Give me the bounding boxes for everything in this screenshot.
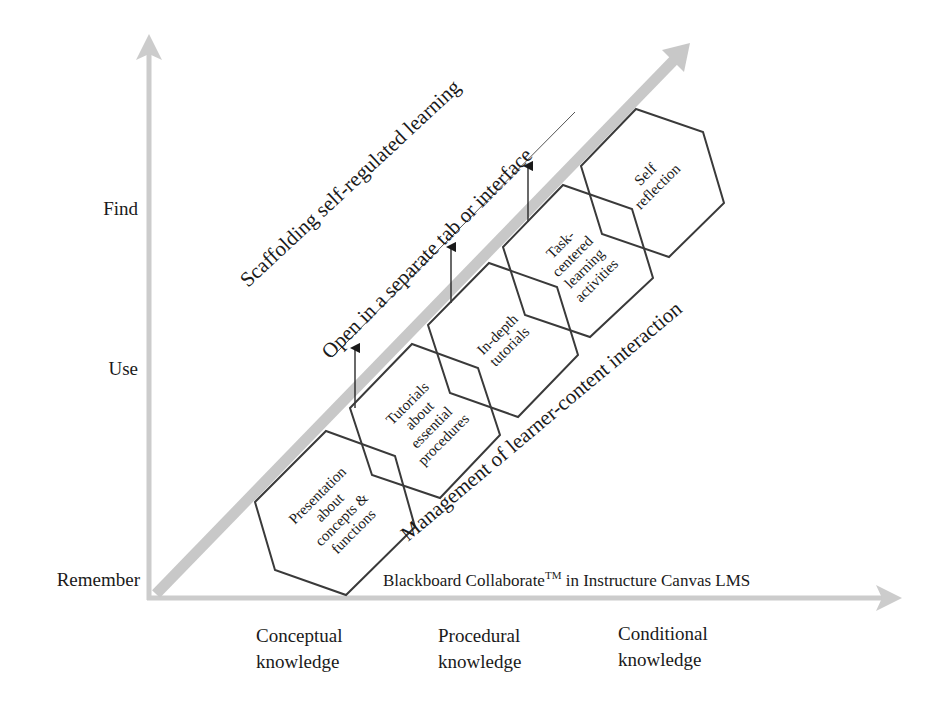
- diagram-canvas: Presentation about concepts & functions …: [0, 0, 930, 704]
- svg-text:Conditional: Conditional: [618, 623, 708, 644]
- hexagon-label-in-depth: In-depth tutorials: [474, 310, 534, 370]
- x-axis-caption: Blackboard CollaborateTM in Instructure …: [383, 569, 750, 590]
- y-level-remember: Remember: [57, 569, 141, 590]
- svg-text:knowledge: knowledge: [438, 651, 521, 672]
- y-level-use: Use: [108, 358, 138, 379]
- hexagon-label-task-centered: Task- centered learning activities: [536, 219, 622, 305]
- x-category-procedural: Procedural knowledge: [438, 625, 521, 672]
- svg-text:Procedural: Procedural: [438, 625, 520, 646]
- y-level-find: Find: [103, 198, 138, 219]
- hexagon-label-self-reflection: Self reflection: [619, 148, 683, 212]
- svg-text:knowledge: knowledge: [256, 651, 339, 672]
- x-category-conditional: Conditional knowledge: [618, 623, 708, 670]
- svg-text:knowledge: knowledge: [618, 649, 701, 670]
- hexagon-label-presentation: Presentation about concepts & functions: [285, 463, 385, 563]
- y-axis: [136, 34, 162, 600]
- svg-text:Conceptual: Conceptual: [256, 625, 343, 646]
- x-category-conceptual: Conceptual knowledge: [256, 625, 343, 672]
